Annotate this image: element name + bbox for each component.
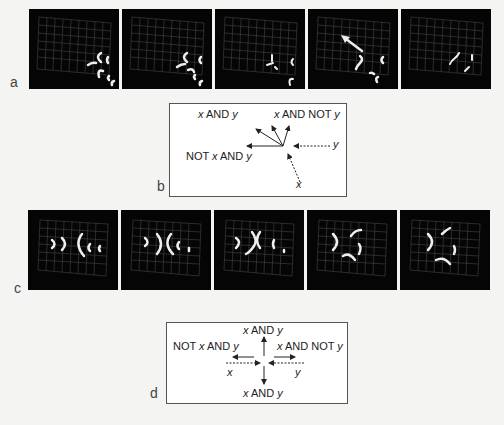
diagram-d: x AND y NOT x AND y x AND NOT y x y x AN… [166, 322, 348, 404]
panel-a-label: a [10, 74, 18, 90]
panel-b-label: b [157, 178, 165, 194]
panel-d-label: d [150, 385, 158, 401]
label-input-y: y [333, 138, 339, 150]
frame-c1 [28, 210, 118, 290]
label-x-and-y-top: x AND y [243, 324, 283, 336]
frame-a4 [308, 9, 398, 89]
diagram-b: x AND y x AND NOT y NOT x AND y y x [169, 103, 347, 197]
frame-a1 [29, 9, 119, 89]
label-x-and-not-y: x AND NOT y [277, 340, 343, 352]
label-input-y: y [295, 366, 301, 378]
frame-c3 [214, 210, 304, 290]
frame-c5 [400, 210, 490, 290]
label-input-x: x [227, 366, 233, 378]
label-x-and-y-bottom: x AND y [243, 387, 283, 399]
frame-c2 [121, 210, 211, 290]
label-not-x-and-y: NOT x AND y [173, 340, 239, 352]
frame-a5 [401, 9, 491, 89]
frame-a2 [122, 9, 212, 89]
frame-c4 [307, 210, 397, 290]
label-x-and-y: x AND y [198, 108, 238, 120]
label-x-and-not-y: x AND NOT y [274, 108, 340, 120]
panel-c-label: c [14, 280, 21, 296]
label-not-x-and-y: NOT x AND y [186, 150, 252, 162]
label-input-x: x [296, 178, 302, 190]
frame-a3 [215, 9, 305, 89]
